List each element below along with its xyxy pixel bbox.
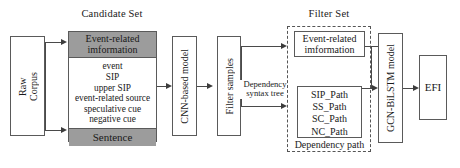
candidate-item: event-related source (69, 93, 156, 104)
candidate-sentence-footer: Sentence (69, 128, 156, 146)
corpus-to-event-arrowhead (61, 39, 67, 45)
filter-event-related-information-node: Event-related imformation (294, 31, 365, 57)
raw-corpus-node: Raw Corpus (10, 36, 45, 136)
dependency-path-caption: Dependency path (289, 139, 370, 150)
gcn-bilstm-model-label: GCN-BiLSTM model (385, 44, 396, 132)
cnn-based-model-label: CNN-based model (179, 49, 190, 124)
pipeline-diagram: Candidate Set Filter Set Raw Corpus Even… (0, 0, 460, 168)
candidate-to-cnn-line (157, 86, 166, 87)
cnn-to-filter-samples-arrowhead (207, 83, 213, 89)
gcn-to-efi-line (403, 88, 413, 89)
candidate-item: speculative cue (69, 104, 156, 115)
filter-header-line2: imformation (305, 44, 355, 56)
filter-samples-node: Filter samples (217, 36, 241, 136)
candidate-item: event (69, 61, 156, 72)
candidate-item: upper SIP (69, 83, 156, 94)
candidate-set-node: Event-related imformation event SIP uppe… (68, 31, 157, 142)
raw-corpus-label-line2: Corpus (28, 72, 39, 101)
dependency-path-item: SS_Path (298, 101, 361, 113)
filter-header-line1: Event-related (303, 33, 357, 45)
filter-set-merge-line (371, 46, 372, 88)
candidate-item: negative cue (69, 114, 156, 125)
cnn-based-model-node: CNN-based model (172, 36, 197, 136)
filter-samples-label: Filter samples (224, 58, 235, 114)
raw-corpus-label-line1: Raw (17, 77, 28, 95)
cnn-to-filter-samples-line (197, 86, 207, 87)
gcn-bilstm-model-node: GCN-BiLSTM model (378, 33, 403, 143)
dependency-path-node: SIP_Path SS_Path SC_Path NC_Path (297, 86, 362, 138)
filter-samples-to-event-line (241, 46, 281, 47)
candidate-set-title: Candidate Set (62, 8, 162, 19)
corpus-to-sentence-line (45, 130, 61, 131)
dependency-syntax-tree-line2: syntax tree (246, 88, 283, 98)
dependency-path-item: SIP_Path (298, 89, 361, 101)
candidate-header-line1: Event-related (86, 33, 140, 44)
candidate-item-list: event SIP upper SIP event-related source… (69, 58, 156, 128)
dependency-path-item: NC_Path (298, 126, 361, 138)
filter-samples-to-path-line (241, 106, 281, 107)
corpus-branch-line (45, 42, 46, 130)
corpus-to-event-line (45, 42, 61, 43)
corpus-to-sentence-arrowhead (61, 127, 67, 133)
candidate-item: SIP (69, 72, 156, 83)
raw-corpus-label: Raw Corpus (17, 72, 39, 101)
dependency-path-item: SC_Path (298, 113, 361, 125)
efi-node: EFI (419, 55, 447, 120)
dependency-path-to-gcn-line (362, 88, 371, 89)
candidate-event-related-header: Event-related imformation (69, 32, 156, 58)
candidate-header-line2: imformation (88, 44, 138, 55)
dependency-syntax-tree-edge-label: Dependency syntax tree (240, 80, 290, 99)
filter-set-title: Filter Set (284, 8, 374, 19)
